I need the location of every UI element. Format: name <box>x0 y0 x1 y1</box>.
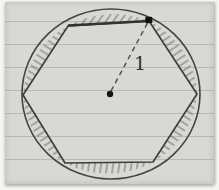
hatched-segment-bottom <box>65 162 153 174</box>
vertex-point <box>145 17 152 24</box>
center-point <box>107 91 113 97</box>
hexagon-inscribed-in-circle-figure: 1 <box>0 0 219 190</box>
radius-label: 1 <box>134 52 146 74</box>
